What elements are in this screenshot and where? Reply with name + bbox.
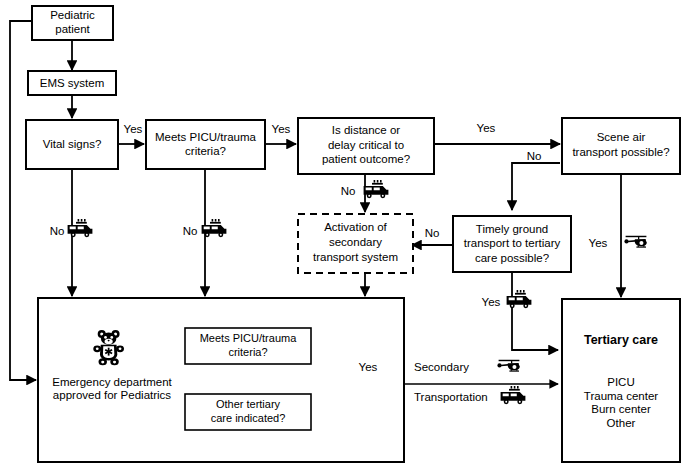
node-tertiary-care-item-0: PICU <box>607 376 634 388</box>
helicopter-icon <box>624 236 646 248</box>
ambulance-icon <box>364 180 389 198</box>
node-ems-system-label: EMS system <box>40 77 105 89</box>
node-pediatric-patient-line1: Pediatric <box>50 9 95 21</box>
node-meets-picu-trauma-line1: Meets PICU/trauma <box>155 131 257 143</box>
node-meets-picu-trauma-line2: criteria? <box>185 145 226 157</box>
edge-label-scene-air-no: No <box>527 150 542 162</box>
node-activation-line2: secondary <box>329 236 382 248</box>
flowchart-svg: Pediatric patient EMS system Vital signs… <box>0 0 687 472</box>
edge-label-transportation: Transportation <box>414 391 488 403</box>
node-timely-ground-line1: Timely ground <box>476 223 548 235</box>
edge-label-vital-no: No <box>50 225 65 237</box>
flowchart-canvas: Pediatric patient EMS system Vital signs… <box>0 0 687 472</box>
node-tertiary-care-item-3: Other <box>607 417 636 429</box>
edge-label-distance-yes: Yes <box>477 122 496 134</box>
node-activation-line1: Activation of <box>324 221 387 233</box>
node-scene-air-line2: transport possible? <box>572 146 669 158</box>
ambulance-icon <box>507 290 532 308</box>
edge-label-vital-yes: Yes <box>124 123 143 135</box>
node-distance-delay-line1: Is distance or <box>332 124 401 136</box>
edge-label-secondary: Secondary <box>414 361 469 373</box>
edge-label-timely-no: No <box>425 227 440 239</box>
node-emergency-department-line2: approved for Pediatrics <box>53 389 172 401</box>
helicopter-icon <box>497 360 519 372</box>
connector-scene-air-no <box>512 163 560 210</box>
edge-label-timely-yes: Yes <box>482 296 501 308</box>
node-ed-meets-picu-line2: criteria? <box>228 346 267 358</box>
edge-label-picu-no: No <box>183 225 198 237</box>
node-distance-delay-line2: delay critical to <box>328 139 404 151</box>
node-emergency-department-line1: Emergency department <box>52 376 172 388</box>
node-tertiary-care-title: Tertiary care <box>584 333 658 347</box>
edge-label-ed-yes: Yes <box>359 361 378 373</box>
node-ed-other-tertiary-line1: Other tertiary <box>216 398 281 410</box>
connector-timely-yes <box>512 272 558 350</box>
node-tertiary-care-item-1: Trauma center <box>584 390 659 402</box>
node-vital-signs-label: Vital signs? <box>43 138 102 150</box>
node-activation-line3: transport system <box>313 251 398 263</box>
node-pediatric-patient-line2: patient <box>55 23 90 35</box>
ambulance-icon <box>501 386 526 404</box>
node-ed-other-tertiary-line2: care indicated? <box>211 412 286 424</box>
node-ed-meets-picu-line1: Meets PICU/trauma <box>200 332 297 344</box>
edge-label-distance-no: No <box>341 185 356 197</box>
node-scene-air-line1: Scene air <box>597 131 646 143</box>
node-distance-delay-line3: patient outcome? <box>322 153 410 165</box>
edge-label-scene-air-yes: Yes <box>589 237 608 249</box>
node-tertiary-care-item-2: Burn center <box>591 403 651 415</box>
edge-label-picu-yes: Yes <box>272 123 291 135</box>
node-timely-ground-line3: care possible? <box>475 252 549 264</box>
node-timely-ground-line2: transport to tertiary <box>464 237 561 249</box>
